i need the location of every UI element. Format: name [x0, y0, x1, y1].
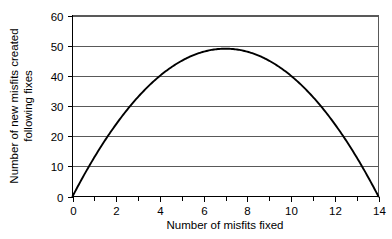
x-tick-label-10: 10	[285, 205, 298, 217]
chart-figure: 0102030405060 02468101214 Number of misf…	[0, 0, 392, 239]
x-tick-label-0: 0	[70, 205, 76, 217]
x-tick-label-14: 14	[373, 205, 386, 217]
y-tick-label-60: 60	[51, 11, 64, 23]
y-tick-label-40: 40	[51, 71, 64, 83]
y-tick-label-10: 10	[51, 161, 64, 173]
x-tick-label-12: 12	[329, 205, 342, 217]
y-tick-label-20: 20	[51, 131, 64, 143]
y-tick-label-0: 0	[57, 192, 63, 204]
x-tick-label-2: 2	[113, 205, 119, 217]
y-axis-title-line-2: following fixes	[22, 70, 34, 142]
parabola-line-chart: 0102030405060 02468101214 Number of misf…	[0, 0, 392, 239]
x-tick-label-6: 6	[201, 205, 207, 217]
x-axis-title: Number of misfits fixed	[167, 219, 284, 231]
x-tick-label-4: 4	[157, 205, 164, 217]
y-tick-label-30: 30	[51, 101, 64, 113]
y-axis-title-line-1: Number of new misfits created	[8, 28, 20, 183]
x-tick-label-8: 8	[244, 205, 250, 217]
y-tick-label-50: 50	[51, 41, 64, 53]
